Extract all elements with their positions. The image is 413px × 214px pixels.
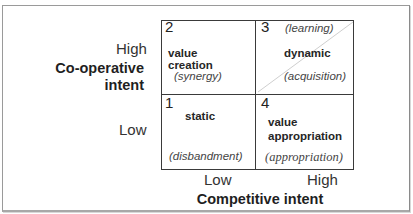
quadrant-3-label: dynamic [284,47,331,59]
quadrant-2-label: value creation [168,47,213,71]
quadrant-1-sublabel: (disbandment) [169,150,243,162]
x-axis-high-label: High [307,171,338,188]
quadrant-4-number: 4 [261,94,269,111]
y-axis-title-line2: intent [40,77,144,94]
quadrant-1-label: static [185,110,215,122]
x-axis-title: Competitive intent [165,191,355,208]
quadrant-3-number: 3 [261,18,269,35]
grid-horizontal-divider [161,94,354,95]
quadrant-2-number: 2 [165,18,173,35]
quadrant-3-top-note: (learning) [285,22,334,34]
quadrant-4-sublabel: (appropriation) [265,150,343,165]
y-axis-title: Co-operative intent [40,60,144,94]
x-axis-low-label: Low [204,171,232,188]
quadrant-1-number: 1 [165,94,173,111]
quadrant-3-sublabel: (acquisition) [284,70,346,82]
y-axis-low-label: Low [119,121,147,138]
y-axis-high-label: High [116,40,147,57]
quadrant-4-label-line1: value [268,116,297,128]
y-axis-title-line1: Co-operative [40,60,144,77]
quadrant-4-label-line2: appropriation [268,130,342,142]
quadrant-2-sublabel: (synergy) [174,70,222,82]
